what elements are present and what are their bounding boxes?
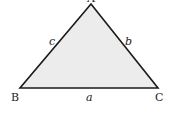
vertex-label-c: C (155, 91, 163, 104)
side-label-a: a (86, 91, 93, 104)
triangle-shape (20, 4, 158, 88)
vertex-label-b: B (11, 91, 19, 104)
side-label-b: b (125, 35, 132, 48)
side-label-c: c (49, 35, 55, 48)
triangle-diagram: A B C a b c (0, 0, 171, 137)
vertex-label-a: A (86, 0, 96, 5)
